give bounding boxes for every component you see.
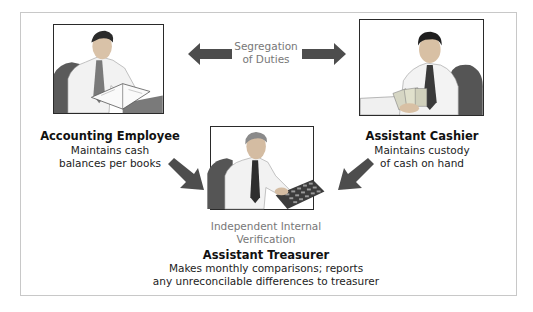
assistant-cashier-title: Assistant Cashier xyxy=(352,129,492,143)
independent-internal-verification-label: Independent Internal Verification xyxy=(186,220,346,246)
segregation-line2: of Duties xyxy=(226,53,306,66)
down-left-arrow-icon xyxy=(336,158,376,192)
assistant-treasurer-title: Assistant Treasurer xyxy=(186,248,346,262)
assistant-treasurer-illustration xyxy=(210,126,314,210)
man-reading-ledger-icon xyxy=(54,25,163,113)
assistant-cashier-illustration xyxy=(359,19,484,116)
accounting-employee-illustration xyxy=(53,24,164,114)
verification-line1: Independent Internal xyxy=(186,220,346,233)
down-right-arrow-icon xyxy=(166,158,206,192)
verification-line2: Verification xyxy=(186,233,346,246)
segregation-of-duties-label: Segregation of Duties xyxy=(226,40,306,66)
assistant-treasurer-description: Makes monthly comparisons; reports any u… xyxy=(146,262,386,288)
man-counting-cash-icon xyxy=(360,20,483,115)
man-using-calculator-icon xyxy=(211,127,313,209)
accounting-employee-title: Accounting Employee xyxy=(40,129,180,143)
accounting-employee-description: Maintains cash balances per books xyxy=(40,144,180,170)
assistant-cashier-desc-line1: Maintains custody xyxy=(352,144,492,157)
right-arrow-icon xyxy=(302,43,346,65)
segregation-line1: Segregation xyxy=(226,40,306,53)
assistant-treasurer-desc-line2: any unreconcilable differences to treasu… xyxy=(146,275,386,288)
accounting-employee-desc-line2: balances per books xyxy=(40,157,180,170)
assistant-treasurer-desc-line1: Makes monthly comparisons; reports xyxy=(146,262,386,275)
accounting-employee-desc-line1: Maintains cash xyxy=(40,144,180,157)
